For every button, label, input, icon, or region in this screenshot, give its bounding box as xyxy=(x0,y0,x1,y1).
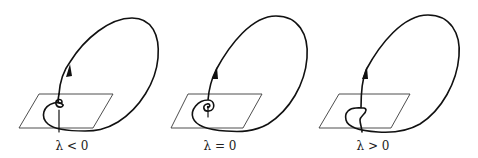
homoclinic-bifurcation-figure xyxy=(0,0,478,158)
panel-lambda-negative xyxy=(19,18,158,132)
panel-lambda-positive xyxy=(319,15,459,132)
local-plane xyxy=(319,94,410,128)
flow-direction-arrow-icon xyxy=(212,67,218,79)
homoclinic-orbit-loop xyxy=(346,15,460,132)
orbit-twist xyxy=(56,94,63,107)
panel-label-lambda-zero: λ = 0 xyxy=(190,138,250,154)
panel-lambda-zero xyxy=(171,16,307,131)
homoclinic-orbit-loop xyxy=(192,16,307,131)
equilibrium-point xyxy=(207,106,209,108)
local-plane xyxy=(171,94,262,128)
local-plane xyxy=(19,94,113,128)
panel-label-lambda-negative: λ < 0 xyxy=(42,138,102,154)
flow-direction-arrow-icon xyxy=(362,67,368,79)
panel-label-lambda-positive: λ > 0 xyxy=(343,138,403,154)
